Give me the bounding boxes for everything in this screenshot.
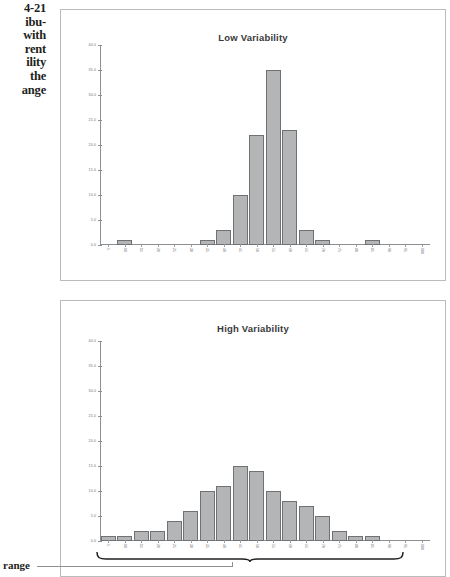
x-axis-tick xyxy=(356,540,357,543)
x-axis-tick-label: 15 xyxy=(139,544,143,548)
y-axis-tick xyxy=(98,466,102,467)
x-axis-tick-label: 65 xyxy=(304,544,308,548)
y-axis-tick xyxy=(98,416,102,417)
y-axis-tick-label: 20.0 xyxy=(89,143,96,147)
histogram-bar xyxy=(266,491,281,541)
histogram-bar xyxy=(216,230,231,245)
bars-low-variability xyxy=(100,45,430,245)
x-axis-tick xyxy=(290,540,291,543)
y-axis-tick xyxy=(98,120,102,121)
x-axis-tick xyxy=(389,540,390,543)
x-axis-tick xyxy=(108,540,109,543)
x-axis-tick-label: 5 xyxy=(106,248,110,250)
x-axis-tick xyxy=(224,244,225,247)
plot-area-low-variability: 0.05.010.015.020.025.030.035.040.0510152… xyxy=(100,45,430,245)
x-axis-tick-label: 95 xyxy=(403,248,407,252)
x-axis-tick xyxy=(422,540,423,543)
x-axis-tick xyxy=(191,244,192,247)
chart-panel-low-variability: Low Variability 0.05.010.015.020.025.030… xyxy=(60,9,446,281)
x-axis-tick-label: 100 xyxy=(420,544,424,550)
plot-area-high-variability: 0.05.010.015.020.025.030.035.040.0510152… xyxy=(100,341,430,541)
x-axis-tick-label: 25 xyxy=(172,248,176,252)
x-axis-tick-label: 100 xyxy=(420,248,424,254)
x-axis-tick xyxy=(224,540,225,543)
x-axis-tick xyxy=(405,540,406,543)
range-bracket-icon xyxy=(96,551,404,563)
x-axis-tick-label: 20 xyxy=(156,248,160,252)
x-axis-tick xyxy=(306,244,307,247)
x-axis-tick xyxy=(240,540,241,543)
x-axis-tick xyxy=(372,244,373,247)
x-axis-tick xyxy=(125,540,126,543)
y-axis-tick-label: 20.0 xyxy=(89,439,96,443)
x-axis-tick xyxy=(323,244,324,247)
y-axis-tick xyxy=(98,491,102,492)
x-axis-tick-label: 10 xyxy=(123,544,127,548)
x-axis-tick xyxy=(257,244,258,247)
y-axis-tick-label: 5.0 xyxy=(91,218,96,222)
x-axis-tick-label: 35 xyxy=(205,248,209,252)
x-axis-tick-label: 90 xyxy=(387,544,391,548)
x-axis-tick xyxy=(339,244,340,247)
chart-panel-high-variability: High Variability 0.05.010.015.020.025.03… xyxy=(60,300,446,577)
y-axis-tick xyxy=(98,45,102,46)
histogram-bar xyxy=(233,466,248,541)
x-axis-tick xyxy=(339,540,340,543)
x-axis-tick-label: 15 xyxy=(139,248,143,252)
x-axis-tick-label: 80 xyxy=(354,248,358,252)
caption-line: ange xyxy=(0,84,46,98)
x-axis-tick xyxy=(108,244,109,247)
histogram-bar xyxy=(282,501,297,541)
histogram-bar xyxy=(266,70,281,245)
x-axis-tick-label: 70 xyxy=(321,248,325,252)
y-axis-tick-label: 10.0 xyxy=(89,193,96,197)
chart-title: Low Variability xyxy=(61,32,445,43)
x-axis-tick xyxy=(356,244,357,247)
y-axis-tick-label: 0.0 xyxy=(91,539,96,543)
x-axis-tick xyxy=(141,540,142,543)
x-axis-tick xyxy=(323,540,324,543)
x-axis-tick xyxy=(372,540,373,543)
x-axis-tick-label: 60 xyxy=(288,544,292,548)
x-axis-tick-label: 85 xyxy=(370,544,374,548)
histogram-bar xyxy=(249,471,264,541)
y-axis-tick xyxy=(98,541,102,542)
x-axis-tick xyxy=(257,540,258,543)
x-axis-tick xyxy=(240,244,241,247)
x-axis-tick-label: 90 xyxy=(387,248,391,252)
y-axis-tick-label: 15.0 xyxy=(89,168,96,172)
x-axis-tick xyxy=(158,244,159,247)
histogram-bar xyxy=(183,511,198,541)
y-axis-tick xyxy=(98,95,102,96)
histogram-bar xyxy=(299,506,314,541)
y-axis-tick xyxy=(98,441,102,442)
x-axis-tick xyxy=(389,244,390,247)
x-axis-tick-label: 70 xyxy=(321,544,325,548)
figure-caption: 4-21 ibu- with rent ility the ange xyxy=(0,2,46,97)
x-axis-tick xyxy=(125,244,126,247)
x-axis-tick-label: 40 xyxy=(222,248,226,252)
y-axis-tick xyxy=(98,245,102,246)
y-axis-tick xyxy=(98,195,102,196)
y-axis-tick-label: 0.0 xyxy=(91,243,96,247)
y-axis-tick xyxy=(98,366,102,367)
x-axis-tick-label: 35 xyxy=(205,544,209,548)
y-axis-tick xyxy=(98,341,102,342)
y-axis-tick xyxy=(98,145,102,146)
x-axis-tick-label: 40 xyxy=(222,544,226,548)
x-axis-tick xyxy=(422,244,423,247)
x-axis-tick-label: 30 xyxy=(189,248,193,252)
x-axis-tick-label: 45 xyxy=(238,544,242,548)
histogram-bar xyxy=(167,521,182,541)
y-axis-tick xyxy=(98,170,102,171)
histogram-bar xyxy=(233,195,248,245)
caption-line: rent xyxy=(0,43,46,57)
x-axis-tick-label: 75 xyxy=(337,544,341,548)
caption-line: ility xyxy=(0,56,46,70)
x-axis-tick-label: 95 xyxy=(403,544,407,548)
bars-high-variability xyxy=(100,341,430,541)
x-axis-tick-label: 65 xyxy=(304,248,308,252)
chart-title: High Variability xyxy=(61,323,445,334)
y-axis-tick-label: 10.0 xyxy=(89,489,96,493)
y-axis-tick-label: 15.0 xyxy=(89,464,96,468)
